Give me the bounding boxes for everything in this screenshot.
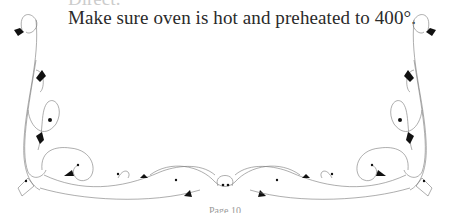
center-flourish — [150, 166, 300, 197]
flourish-border-icon — [0, 0, 450, 213]
right-flourish — [235, 15, 436, 200]
left-flourish — [14, 15, 215, 200]
document-page: Direct: Make sure oven is hot and prehea… — [0, 0, 450, 213]
page-footer: Page 10 — [0, 205, 450, 213]
